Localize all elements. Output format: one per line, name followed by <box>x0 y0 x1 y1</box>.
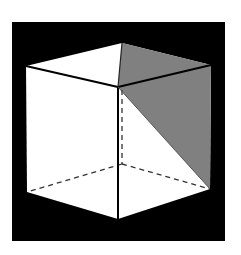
cube-diagram <box>0 0 241 255</box>
